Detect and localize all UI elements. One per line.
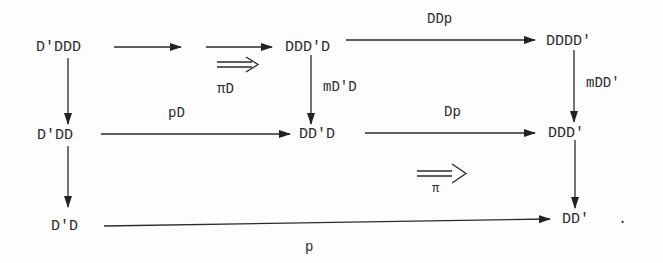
double-arrow-pid-icon bbox=[217, 57, 258, 72]
label-p: p bbox=[305, 240, 313, 254]
node-dddp: DDD' bbox=[548, 126, 584, 141]
node-ddpd: DD'D bbox=[299, 127, 335, 142]
node-ddp: DD' bbox=[562, 212, 589, 227]
label-ddp: DDp bbox=[427, 12, 452, 26]
terminal-period: . bbox=[618, 212, 627, 227]
node-dpd: D'D bbox=[51, 219, 78, 234]
node-ddddp: DDDD' bbox=[546, 34, 591, 49]
commutative-diagram: D'DDD DDD'D DDDD' D'DD DD'D DDD' D'D DD'… bbox=[0, 0, 663, 263]
label-dp: Dp bbox=[444, 105, 461, 119]
node-dpddd: D'DDD bbox=[36, 40, 81, 55]
label-md-d: mD'D bbox=[323, 80, 357, 94]
double-arrow-pi-icon bbox=[417, 164, 466, 183]
label-pi: π bbox=[432, 182, 439, 196]
label-pi-d: πD bbox=[217, 82, 234, 96]
arrow-dpd-to-ddp bbox=[104, 219, 550, 226]
label-mdd: mDD' bbox=[586, 76, 620, 90]
node-dddpd: DDD'D bbox=[285, 40, 330, 55]
node-dpdd: D'DD bbox=[37, 128, 73, 143]
label-pd: pD bbox=[168, 106, 185, 120]
